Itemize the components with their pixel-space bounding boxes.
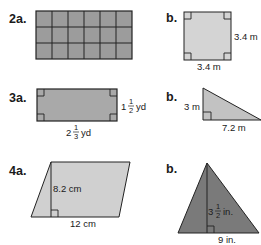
svg-text:1: 1 [74,123,78,132]
base-measure: 2 1 3 yd [66,123,91,141]
base-measure: 9 in. [218,234,236,245]
right-triangle [203,88,261,120]
svg-text:in.: in. [223,206,233,217]
base-measure: 3.4 m [197,61,221,72]
svg-text:3: 3 [208,206,213,217]
height-measure: 8.2 cm [53,183,82,194]
problem-label-4b: b. [166,162,177,176]
problem-label-4a: 4a. [9,164,26,178]
side-measure: 1 1 2 yd [121,97,146,115]
svg-text:1: 1 [121,101,126,112]
height-measure: 3 m [184,101,200,112]
problem-2b: b. 3.4 m 3.4 m [166,11,258,72]
base-measure: 12 cm [70,218,96,229]
base-measure: 7.2 m [222,122,246,133]
svg-text:1: 1 [216,202,220,211]
geometry-figure-sheet: 2a. b. 3.4 m 3.4 m 3a. [0,0,261,245]
rectangle [37,89,117,121]
svg-text:yd: yd [136,101,146,112]
svg-text:3: 3 [74,132,78,141]
problem-4b: b. 3 1 2 in. 9 in. [166,162,259,245]
problem-3a: 3a. 1 1 2 yd 2 1 3 yd [9,89,146,141]
problem-4a: 4a. 8.2 cm 12 cm [9,162,130,229]
problem-label-3b: b. [166,90,177,104]
problem-2a: 2a. [9,11,132,59]
svg-text:1: 1 [129,97,133,106]
svg-text:yd: yd [81,127,91,138]
side-measure: 3.4 m [234,31,258,42]
problem-3b: b. 3 m 7.2 m [166,88,261,133]
problem-label-2b: b. [166,11,177,25]
svg-text:2: 2 [129,106,133,115]
problem-label-3a: 3a. [9,91,26,105]
triangle [178,163,259,233]
svg-text:2: 2 [216,211,220,220]
problem-label-2a: 2a. [9,12,26,26]
svg-text:2: 2 [66,127,71,138]
